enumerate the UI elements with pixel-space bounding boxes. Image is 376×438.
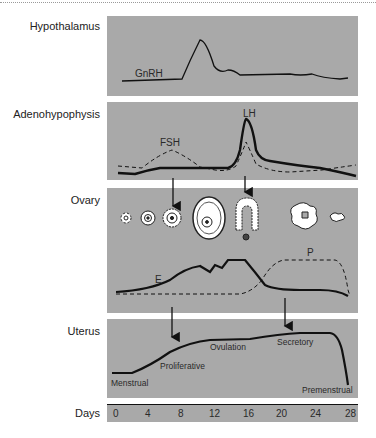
phase-secretory: Secretory [277,337,314,347]
uterus-panel: Menstrual Proliferative Ovulation Secret… [107,319,358,398]
day-tick: 16 [243,408,255,419]
gnrh-label: GnRH [135,68,163,79]
days-axis: 0 4 8 12 16 20 24 28 [107,404,358,422]
ovary-panel: E P [107,188,358,313]
progesterone-label: P [307,247,314,258]
day-tick: 4 [145,408,151,419]
adenohypophysis-panel: FSH LH [107,102,358,180]
lh-label: LH [243,108,256,119]
day-tick: 8 [178,408,184,419]
day-tick: 20 [276,408,288,419]
fsh-label: FSH [160,137,180,148]
day-tick: 28 [345,408,357,419]
phase-premenstrual: Premenstrual [302,385,353,395]
phase-proliferative: Proliferative [160,361,205,371]
day-tick: 12 [209,408,221,419]
day-tick: 24 [310,408,322,419]
menstrual-cycle-diagram: GnRH FSH LH E P [0,0,376,438]
estrogen-label: E [155,274,162,285]
hypothalamus-panel: GnRH [107,16,358,96]
day-tick: 0 [113,408,119,419]
phase-ovulation: Ovulation [210,342,246,352]
phase-menstrual: Menstrual [111,378,148,388]
